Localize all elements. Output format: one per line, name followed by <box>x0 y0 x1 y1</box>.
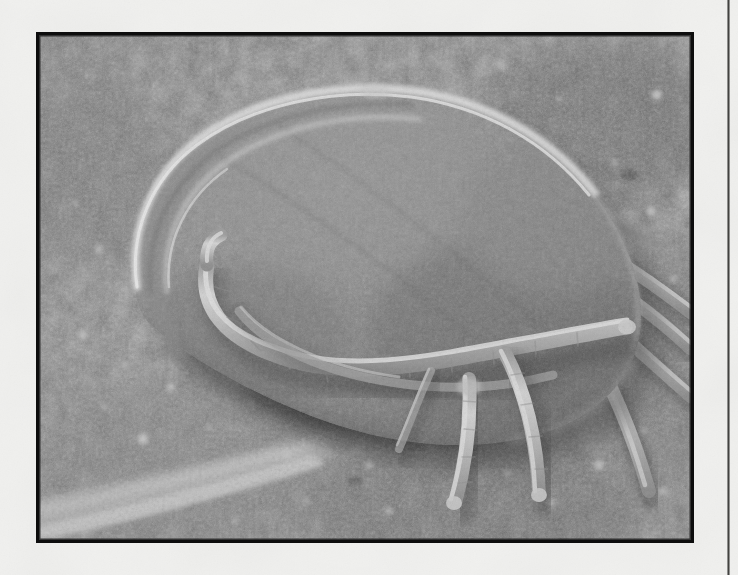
sem-micrograph-mite <box>39 35 691 540</box>
page-gutter-rule <box>727 0 730 575</box>
figure-frame <box>36 32 694 543</box>
scanned-page <box>0 0 738 575</box>
